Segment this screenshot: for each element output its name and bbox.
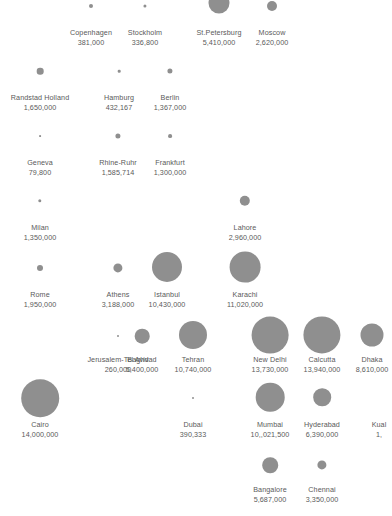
bubble-marker [256, 383, 285, 412]
bubble-marker [179, 321, 207, 349]
bubble-label-value: 5,687,000 [253, 495, 287, 505]
bubble-label: Lahore2,960,000 [229, 223, 262, 243]
bubble-marker [192, 397, 194, 399]
bubble-label-value: 13,730,000 [252, 365, 289, 375]
bubble-marker [117, 335, 119, 337]
bubble-label-name: Rome [24, 290, 57, 300]
bubble-label-name: Tehran [175, 355, 212, 365]
bubble-marker [143, 4, 146, 7]
bubble-label-name: Karachi [227, 290, 263, 300]
bubble-marker [115, 133, 120, 138]
bubble-marker [168, 134, 172, 138]
bubble-label: Hyderabad6,390,000 [304, 420, 340, 440]
bubble-label: Randstad Holland1,650,000 [11, 93, 69, 113]
bubble-label: Mumbai10,,021,500 [251, 420, 290, 440]
bubble-marker [361, 324, 384, 347]
bubble-label-value: 11,020,000 [227, 300, 263, 310]
bubble-marker [167, 68, 172, 73]
bubble-label-name: Hyderabad [304, 420, 340, 430]
bubble-marker [317, 460, 326, 469]
bubble-label-value: 2,620,000 [256, 38, 289, 48]
bubble-label-name: Mumbai [251, 420, 290, 430]
bubble-label: Karachi11,020,000 [227, 290, 263, 310]
bubble-marker [230, 252, 261, 283]
bubble-label: Milan1,350,000 [24, 223, 57, 243]
bubble-label: New Delhi13,730,000 [252, 355, 289, 375]
bubble-marker [39, 135, 41, 137]
bubble-label: Dhaka8,610,000 [356, 355, 389, 375]
bubble-label-value: 10,,021,500 [251, 430, 290, 440]
bubble-label: St.Petersburg5,410,000 [197, 28, 242, 48]
bubble-label: Cairo14,000,000 [22, 420, 59, 440]
bubble-label-value: 10,740,000 [175, 365, 212, 375]
bubble-marker [89, 4, 93, 8]
bubble-label-name: Dubai [180, 420, 207, 430]
bubble-marker [113, 263, 122, 272]
bubble-label-name: Baghdad [126, 355, 159, 365]
bubble-label-name: Frankfurt [154, 158, 187, 168]
bubble-label-name: Bangalore [253, 485, 287, 495]
bubble-marker [313, 388, 331, 406]
bubble-marker [152, 252, 182, 282]
bubble-label-value: 10,430,000 [149, 300, 186, 310]
bubble-label: Bangalore5,687,000 [253, 485, 287, 505]
bubble-label-name: Hamburg [104, 93, 134, 103]
bubble-label-value: 390,333 [180, 430, 207, 440]
bubble-label-value: 1,585,714 [99, 168, 137, 178]
bubble-label: Kual1, [372, 420, 387, 440]
bubble-label-value: 1,367,000 [154, 103, 187, 113]
bubble-marker [267, 1, 277, 11]
bubble-marker [135, 329, 150, 344]
bubble-label: Dubai390,333 [180, 420, 207, 440]
bubble-label-value: 1,350,000 [24, 233, 57, 243]
bubble-label-name: Kual [372, 420, 387, 430]
bubble-marker [21, 379, 59, 417]
bubble-label: Frankfurt1,300,000 [154, 158, 187, 178]
bubble-label-name: Calcutta [304, 355, 341, 365]
bubble-label-value: 1,300,000 [154, 168, 187, 178]
bubble-marker [240, 196, 250, 206]
bubble-label-value: 336,800 [128, 38, 162, 48]
bubble-label-name: St.Petersburg [197, 28, 242, 38]
bubble-label: Hamburg432,167 [104, 93, 134, 113]
bubble-label: Baghdad5,400,000 [126, 355, 159, 375]
bubble-label-name: Randstad Holland [11, 93, 69, 103]
bubble-label-name: Cairo [22, 420, 59, 430]
bubble-label: Tehran10,740,000 [175, 355, 212, 375]
bubble-label-name: Dhaka [356, 355, 389, 365]
bubble-label-value: 5,410,000 [197, 38, 242, 48]
bubble-label: Chennai3,350,000 [306, 485, 339, 505]
bubble-label-value: 14,000,000 [22, 430, 59, 440]
bubble-label-name: Istanbul [149, 290, 186, 300]
bubble-label-name: Lahore [229, 223, 262, 233]
bubble-label-name: Berlin [154, 93, 187, 103]
bubble-marker [118, 70, 121, 73]
bubble-label-name: Stockholm [128, 28, 162, 38]
bubble-label: Istanbul10,430,000 [149, 290, 186, 310]
bubble-label: Geneva79,800 [27, 158, 53, 178]
bubble-label-name: Athens [102, 290, 135, 300]
bubble-label-value: 1, [372, 430, 387, 440]
bubble-chart-canvas: Copenhagen381,000Stockholm336,800St.Pete… [0, 0, 392, 516]
bubble-label: Rhine-Ruhr1,585,714 [99, 158, 137, 178]
bubble-label-value: 13,940,000 [304, 365, 341, 375]
bubble-label: Berlin1,367,000 [154, 93, 187, 113]
bubble-marker [303, 316, 340, 353]
bubble-marker [252, 317, 289, 354]
bubble-label-value: 1,950,000 [24, 300, 57, 310]
bubble-label-name: Milan [24, 223, 57, 233]
bubble-marker [37, 265, 43, 271]
bubble-label-value: 79,800 [27, 168, 53, 178]
bubble-label-name: Rhine-Ruhr [99, 158, 137, 168]
bubble-marker [37, 68, 44, 75]
bubble-label-value: 3,188,000 [102, 300, 135, 310]
bubble-label-name: Geneva [27, 158, 53, 168]
bubble-label-value: 3,350,000 [306, 495, 339, 505]
bubble-label: Stockholm336,800 [128, 28, 162, 48]
bubble-marker [38, 199, 41, 202]
bubble-label-name: Copenhagen [70, 28, 112, 38]
bubble-label-value: 432,167 [104, 103, 134, 113]
bubble-label: Rome1,950,000 [24, 290, 57, 310]
bubble-label-value: 2,960,000 [229, 233, 262, 243]
bubble-label-value: 381,000 [70, 38, 112, 48]
